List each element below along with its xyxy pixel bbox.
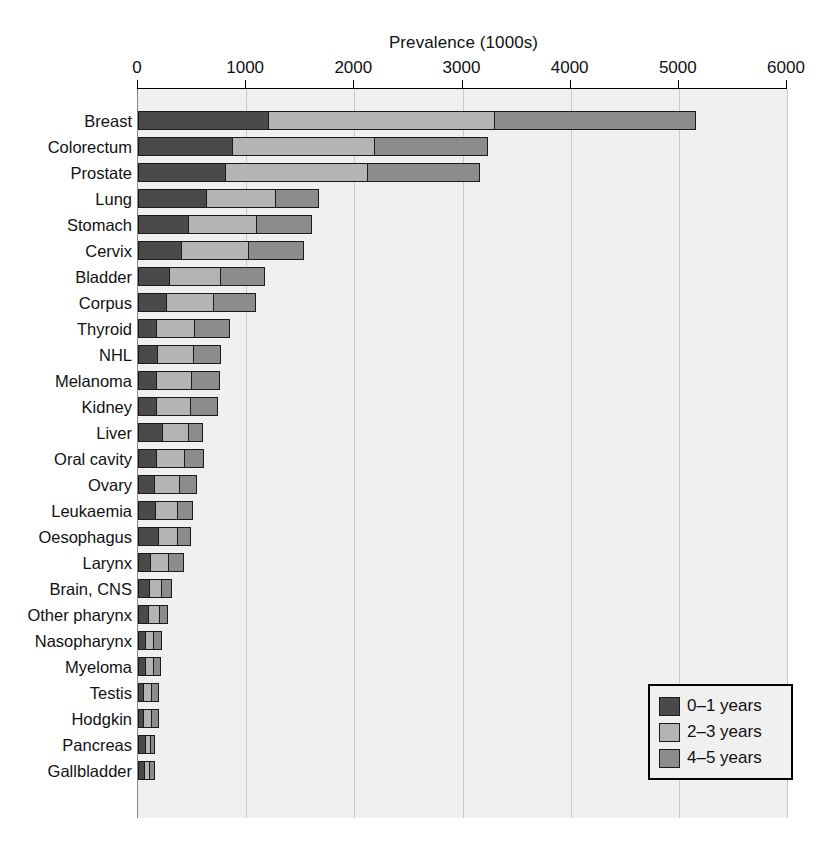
bar-segment	[374, 137, 488, 156]
bar-row	[138, 579, 172, 598]
bar-row	[138, 527, 191, 546]
bar-segment	[181, 241, 249, 260]
y-axis-label-leukaemia: Leukaemia	[2, 502, 132, 521]
bar-row	[138, 605, 168, 624]
legend-swatch-icon	[659, 749, 680, 768]
bar-segment	[138, 475, 155, 494]
y-axis-label-myeloma: Myeloma	[2, 658, 132, 677]
bar-segment	[225, 163, 368, 182]
bar-segment	[494, 111, 696, 130]
bar-segment	[256, 215, 312, 234]
bar-segment	[190, 397, 219, 416]
y-axis-label-hodgkin: Hodgkin	[2, 710, 132, 729]
bar-segment	[138, 241, 182, 260]
bar-row	[138, 345, 221, 364]
bar-row	[138, 657, 161, 676]
bar-segment	[275, 189, 319, 208]
bar-segment	[232, 137, 375, 156]
bar-segment	[154, 475, 180, 494]
y-axis-label-gallbladder: Gallbladder	[2, 762, 132, 781]
y-axis-label-kidney: Kidney	[2, 398, 132, 417]
x-tick-label-3000: 3000	[443, 58, 481, 78]
legend-label: 4–5 years	[687, 748, 762, 768]
bar-segment	[138, 319, 157, 338]
y-axis-label-ovary: Ovary	[2, 476, 132, 495]
y-axis-label-pancreas: Pancreas	[2, 736, 132, 755]
bar-segment	[138, 397, 157, 416]
bar-segment	[213, 293, 256, 312]
bar-row	[138, 735, 155, 754]
bar-segment	[138, 189, 207, 208]
bar-row	[138, 449, 204, 468]
bar-segment	[153, 657, 162, 676]
gridline-4000	[571, 89, 572, 818]
legend-swatch-icon	[659, 697, 680, 716]
bar-segment	[188, 215, 257, 234]
bar-segment	[149, 761, 155, 780]
y-axis-label-corpus: Corpus	[2, 294, 132, 313]
bar-row	[138, 111, 696, 130]
y-axis-label-colorectum: Colorectum	[2, 138, 132, 157]
bar-segment	[177, 527, 191, 546]
bar-row	[138, 631, 162, 650]
y-axis-label-cervix: Cervix	[2, 242, 132, 261]
bar-segment	[138, 137, 233, 156]
bar-row	[138, 683, 159, 702]
y-axis-label-liver: Liver	[2, 424, 132, 443]
bar-row	[138, 293, 256, 312]
bar-segment	[158, 527, 179, 546]
bar-row	[138, 475, 197, 494]
bar-segment	[184, 449, 204, 468]
y-axis-label-testis: Testis	[2, 684, 132, 703]
bar-row	[138, 137, 488, 156]
legend-item: 2–3 years	[659, 719, 779, 745]
y-axis-label-prostate: Prostate	[2, 164, 132, 183]
bar-row	[138, 501, 193, 520]
x-tick-label-4000: 4000	[551, 58, 589, 78]
bar-segment	[138, 371, 157, 390]
y-axis-label-larynx: Larynx	[2, 554, 132, 573]
bar-segment	[138, 345, 158, 364]
y-axis-label-breast: Breast	[2, 112, 132, 131]
y-axis-label-brain-cns: Brain, CNS	[2, 580, 132, 599]
legend-label: 0–1 years	[687, 696, 762, 716]
y-axis-label-oesophagus: Oesophagus	[2, 528, 132, 547]
bar-segment	[138, 267, 170, 286]
y-axis-label-nasopharynx: Nasopharynx	[2, 632, 132, 651]
bar-segment	[161, 579, 172, 598]
bar-row	[138, 267, 265, 286]
y-axis-label-other-pharynx: Other pharynx	[2, 606, 132, 625]
bar-segment	[193, 345, 221, 364]
prevalence-stacked-bar-chart: Prevalence (1000s) 010002000300040005000…	[0, 0, 827, 845]
bar-row	[138, 423, 203, 442]
y-axis-label-oral-cavity: Oral cavity	[2, 450, 132, 469]
bar-segment	[188, 423, 203, 442]
bar-segment	[155, 501, 178, 520]
bar-segment	[138, 293, 167, 312]
bar-segment	[138, 111, 269, 130]
legend-item: 4–5 years	[659, 745, 779, 771]
bar-segment	[159, 605, 169, 624]
bar-row	[138, 241, 304, 260]
bar-segment	[138, 163, 226, 182]
bar-segment	[168, 553, 183, 572]
bar-segment	[194, 319, 230, 338]
bar-segment	[151, 709, 159, 728]
bar-segment	[138, 423, 163, 442]
x-tick-label-6000: 6000	[767, 58, 805, 78]
bar-segment	[166, 293, 214, 312]
bar-segment	[162, 423, 189, 442]
chart-legend: 0–1 years2–3 years4–5 years	[648, 684, 793, 780]
bar-segment	[206, 189, 276, 208]
bar-segment	[138, 215, 189, 234]
bar-row	[138, 371, 220, 390]
bar-segment	[191, 371, 221, 390]
y-axis-label-stomach: Stomach	[2, 216, 132, 235]
y-axis-label-bladder: Bladder	[2, 268, 132, 287]
bar-segment	[268, 111, 495, 130]
bar-segment	[138, 449, 157, 468]
bar-row	[138, 709, 159, 728]
bar-segment	[150, 553, 169, 572]
bar-row	[138, 215, 312, 234]
x-tick-label-5000: 5000	[659, 58, 697, 78]
